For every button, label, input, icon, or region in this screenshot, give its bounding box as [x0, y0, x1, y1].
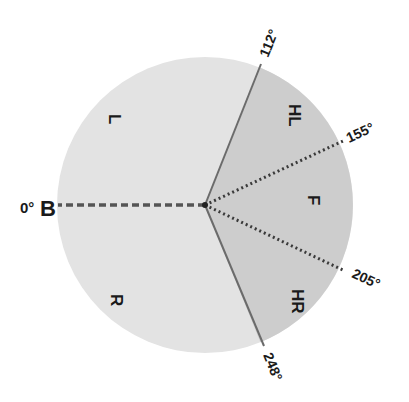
region-HL-label: HL: [285, 104, 304, 127]
label-205-degrees: 205°: [350, 265, 383, 292]
label-112-degrees: 112°: [256, 27, 281, 59]
label-0-degrees: 0°: [20, 199, 34, 216]
label-B: B: [40, 196, 56, 221]
center-point: [202, 202, 208, 208]
label-155-degrees: 155°: [344, 119, 377, 146]
label-248-degrees: 248°: [260, 350, 286, 383]
sector-diagram: 0° B 112° 155° 205° 248° L HL F HR R: [0, 0, 409, 402]
region-HR-label: HR: [288, 289, 307, 314]
region-R-label: R: [107, 294, 126, 306]
region-L-label: L: [105, 114, 124, 124]
region-F-label: F: [304, 195, 323, 205]
